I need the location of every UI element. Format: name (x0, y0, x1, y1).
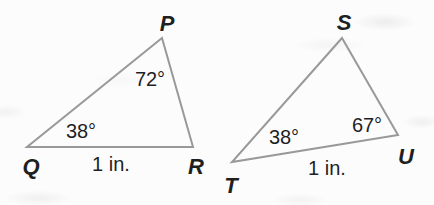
triangle-stu-outline (232, 38, 398, 162)
side-length-label-tu: 1 in. (308, 157, 346, 179)
vertex-label-p: P (160, 11, 175, 36)
angle-measure-u: 67° (352, 114, 382, 136)
two-triangles-figure: P Q R 72° 38° 1 in. S T U 38° 67° 1 in. (0, 0, 434, 205)
side-length-label-qr: 1 in. (92, 153, 130, 175)
angle-measure-q: 38° (66, 120, 96, 142)
vertex-label-r: R (188, 154, 204, 179)
vertex-label-t: T (224, 173, 239, 198)
triangle-pqr-outline (27, 38, 193, 147)
angle-measure-p: 72° (135, 68, 165, 90)
angle-measure-t: 38° (269, 126, 299, 148)
vertex-label-u: U (398, 144, 415, 169)
scanned-worksheet-page: P Q R 72° 38° 1 in. S T U 38° 67° 1 in. (0, 0, 434, 205)
vertex-label-s: S (337, 10, 352, 35)
vertex-label-q: Q (22, 154, 39, 179)
